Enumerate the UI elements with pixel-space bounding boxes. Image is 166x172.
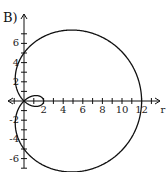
y-tick-label: -6 — [9, 153, 19, 164]
polar-plot: 24681012-6-4-2246r — [0, 0, 166, 172]
y-tick-label: 4 — [13, 57, 19, 68]
x-tick-label: 6 — [80, 104, 86, 115]
x-axis-label: r — [161, 104, 166, 115]
x-tick-label: 8 — [99, 104, 105, 115]
y-tick-label: 6 — [13, 37, 19, 48]
y-tick-label: -2 — [9, 114, 19, 125]
x-tick-label: 10 — [116, 104, 129, 115]
x-tick-label: 4 — [60, 104, 66, 115]
axes — [8, 14, 160, 168]
